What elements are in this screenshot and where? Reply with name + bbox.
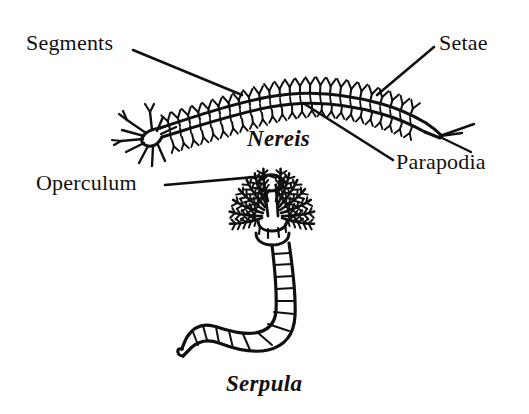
diagram-artwork: [0, 0, 529, 414]
label-operculum: Operculum: [36, 172, 137, 194]
leader-line-setae: [377, 47, 434, 95]
polychaete-diagram: Segments Setae Parapodia Operculum Nerei…: [0, 0, 529, 414]
nereis-tail: [425, 123, 474, 152]
label-segments: Segments: [26, 32, 113, 54]
serpula-collar: [256, 220, 289, 245]
serpula-body: [178, 243, 295, 356]
serpula-illustration: [178, 167, 316, 356]
leader-line-parapodia: [303, 103, 393, 160]
label-nereis: Nereis: [247, 127, 310, 150]
label-parapodia: Parapodia: [396, 151, 486, 173]
label-serpula: Serpula: [226, 372, 302, 395]
leader-line-segments: [133, 50, 242, 95]
label-setae: Setae: [439, 32, 488, 54]
